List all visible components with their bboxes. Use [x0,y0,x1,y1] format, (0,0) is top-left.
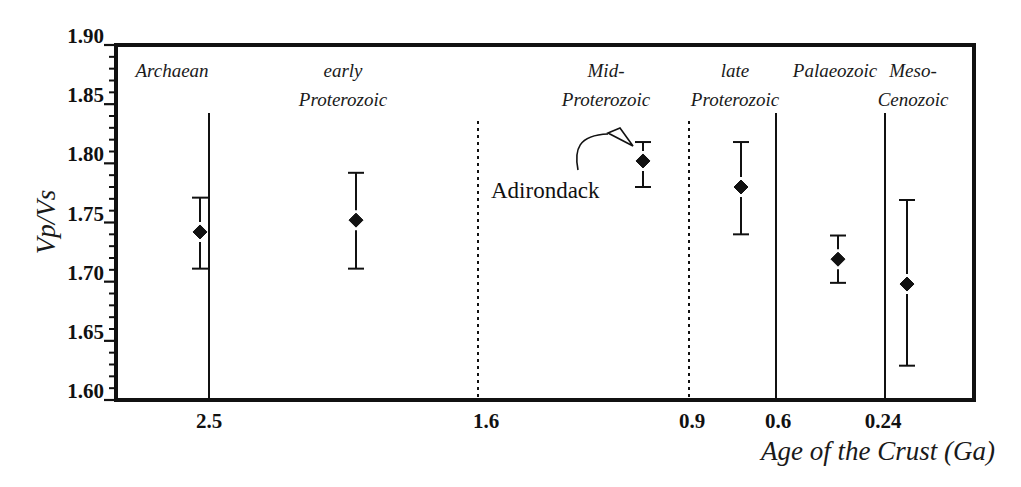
x-tick-label: 1.6 [473,409,499,433]
data-point [899,200,915,366]
x-axis-labels: 2.51.60.90.60.24 [196,409,902,433]
diamond-marker-icon [636,154,650,168]
x-tick-label: 0.6 [765,409,791,433]
era-label-line1: early [323,60,363,81]
data-point [192,198,208,269]
adirondack-annotation: Adirondack [491,128,633,203]
y-tick-label: 1.90 [67,24,104,48]
data-point [733,142,749,234]
y-tick-label: 1.80 [67,142,104,166]
era-label-line2: Proterozoic [690,89,780,110]
y-tick-label: 1.75 [67,202,104,226]
diamond-marker-icon [831,252,845,266]
data-point [635,142,651,187]
era-label-line1: Archaean [133,60,208,81]
era-label-line2: Proterozoic [561,89,651,110]
era-labels: ArchaeanearlyProterozoicMid-Proterozoicl… [133,60,949,110]
annotation-curve [577,134,608,170]
y-axis-title: Vp/Vs [31,190,61,255]
y-tick-label: 1.70 [67,261,104,285]
diamond-marker-icon [193,225,207,239]
x-tick-label: 0.9 [679,409,705,433]
era-label-line1: Meso- [888,60,936,81]
x-tick-label: 0.24 [865,409,902,433]
data-points [192,142,915,366]
era-label-line1: Mid- [587,60,625,81]
y-axis-labels: 1.601.651.701.751.801.851.90 [67,24,104,403]
annotation-label: Adirondack [491,178,600,203]
y-tick-label: 1.60 [67,379,104,403]
y-tick-label: 1.85 [67,83,104,107]
diamond-marker-icon [734,180,748,194]
era-label-line2: Cenozoic [878,89,949,110]
plot-frame [116,45,974,400]
x-axis-title: Age of the Crust (Ga) [759,436,995,466]
data-point [830,236,846,283]
era-label-line1: late [721,60,750,81]
x-tick-label: 2.5 [196,409,222,433]
diamond-marker-icon [349,213,363,227]
data-point [348,173,364,269]
era-label-line1: Palaeozoic [792,60,878,81]
annotation-arrowhead-icon [608,128,633,146]
vp-vs-chart: 1.601.651.701.751.801.851.90 2.51.60.90.… [0,0,1021,487]
era-boundaries [209,113,885,400]
era-label-line2: Proterozoic [298,89,388,110]
diamond-marker-icon [900,277,914,291]
y-tick-label: 1.65 [67,320,104,344]
